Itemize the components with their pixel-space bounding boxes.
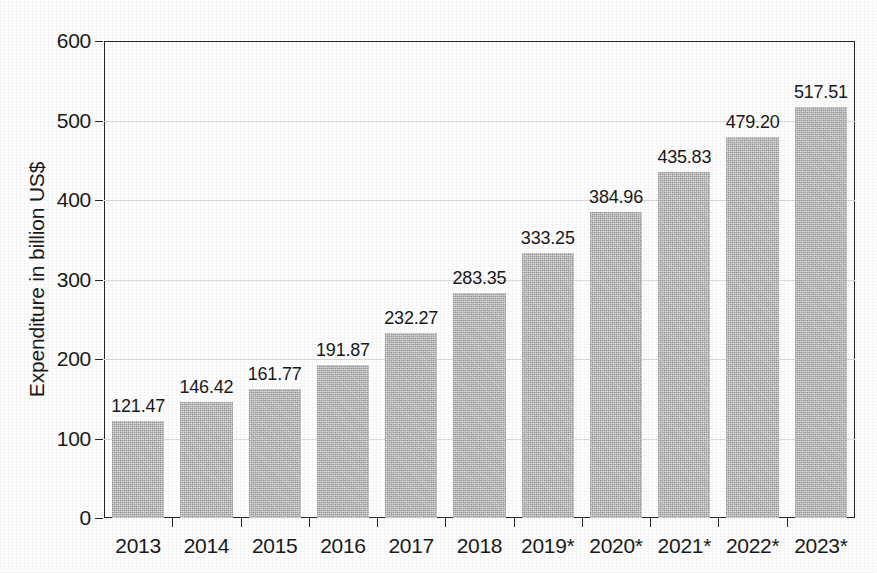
bar-value-label: 232.27 [384,308,438,329]
bar-chart-figure: Expenditure in billion US$ 0100200300400… [0,0,877,573]
bar: 479.20 [726,137,778,518]
y-axis-tick-label: 600 [57,29,91,53]
y-axis-tick-mark [95,359,103,360]
y-axis-tick-mark [95,121,103,122]
bar-value-label: 121.47 [111,396,165,417]
y-axis-tick-label: 100 [57,427,91,451]
x-axis-tick-mark [787,518,788,527]
y-axis-tick-label: 400 [57,188,91,212]
y-axis-title: Expenditure in billion US$ [20,41,54,518]
x-axis-tick-label: 2021* [658,534,711,558]
bar-value-label: 517.51 [794,82,848,103]
bar: 435.83 [658,172,710,518]
y-axis-tick-label: 500 [57,109,91,133]
x-axis-tick-mark [309,518,310,527]
y-axis-tick-mark [95,280,103,281]
bar: 191.87 [317,365,369,518]
x-axis-tick-label: 2022* [726,534,779,558]
bar-value-label: 191.87 [316,340,370,361]
x-axis-tick-mark [514,518,515,527]
x-axis-tick-mark [445,518,446,527]
x-axis-tick-mark [650,518,651,527]
x-axis-tick-label: 2018 [457,534,503,558]
bar: 146.42 [180,402,232,518]
bar-value-label: 333.25 [521,228,575,249]
bar-value-label: 479.20 [726,112,780,133]
bar: 517.51 [795,107,847,518]
y-axis-tick-mark [95,41,103,42]
x-axis-tick-mark [718,518,719,527]
bar: 232.27 [385,333,437,518]
x-axis-tick-label: 2017 [388,534,434,558]
plot-area: 0100200300400500600 121.47146.42161.7719… [104,41,855,518]
y-axis-tick-mark [95,439,103,440]
x-axis-tick-mark [172,518,173,527]
x-axis-tick-label: 2019* [521,534,574,558]
x-axis-tick-label: 2014 [184,534,230,558]
bar: 384.96 [590,212,642,518]
plot-top-border [104,41,855,42]
bar: 333.25 [522,253,574,518]
bar: 283.35 [453,293,505,518]
bar-value-label: 283.35 [453,268,507,289]
x-axis-tick-mark [241,518,242,527]
x-axis-tick-label: 2023* [794,534,847,558]
x-axis-tick-label: 2015 [252,534,298,558]
bar-value-label: 161.77 [248,364,302,385]
bar-value-label: 435.83 [657,147,711,168]
x-axis-tick-mark [582,518,583,527]
y-axis-tick-label: 300 [57,268,91,292]
x-axis-tick-label: 2016 [320,534,366,558]
y-axis-tick-mark [95,200,103,201]
y-axis-tick-label: 200 [57,347,91,371]
y-axis-tick-mark [95,518,103,519]
bar: 121.47 [112,421,164,518]
x-axis-tick-mark [377,518,378,527]
bar: 161.77 [249,389,301,518]
y-axis-tick-label: 0 [80,506,91,530]
bar-value-label: 146.42 [179,377,233,398]
x-axis-tick-label: 2013 [115,534,161,558]
bar-value-label: 384.96 [589,187,643,208]
x-axis-tick-label: 2020* [589,534,642,558]
